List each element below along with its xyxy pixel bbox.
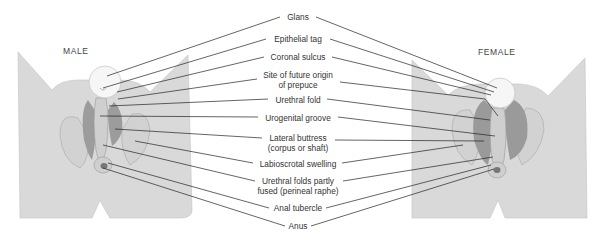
label-site-prepuce: Site of future origin	[262, 70, 334, 80]
label-epithelial-tag: Epithelial tag	[273, 34, 323, 44]
label-site-prepuce-line2: of prepuce	[277, 80, 318, 90]
male-figure	[18, 52, 192, 218]
female-figure	[412, 58, 587, 218]
label-glans: Glans	[286, 12, 310, 22]
label-lateral-buttress-line2: (corpus or shaft)	[267, 143, 329, 153]
label-labioscrotal-swelling: Labioscrotal swelling	[259, 159, 338, 169]
label-urethral-fold: Urethral fold	[274, 95, 321, 105]
label-anal-tubercle: Anal tubercle	[273, 203, 323, 213]
label-urethral-folds-fused-line2: fused (perineal raphe)	[256, 186, 339, 196]
label-anus: Anus	[288, 221, 309, 231]
label-lateral-buttress: Lateral buttress	[268, 133, 327, 143]
label-coronal-sulcus: Coronal sulcus	[270, 52, 327, 62]
label-urogenital-groove: Urogenital groove	[264, 113, 332, 123]
female-title: FEMALE	[478, 47, 516, 57]
label-urethral-folds-fused: Urethral folds partly	[261, 176, 335, 186]
male-title: MALE	[63, 46, 89, 56]
